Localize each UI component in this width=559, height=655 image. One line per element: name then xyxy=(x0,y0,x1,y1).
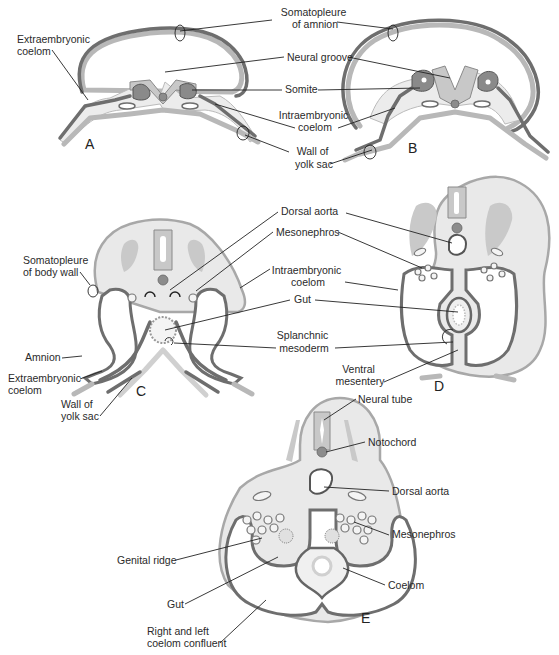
panel-label-e: E xyxy=(361,610,370,626)
label-gut-e: Gut xyxy=(167,598,184,610)
panel-b xyxy=(343,20,548,160)
label-intraembryonic-coelom-cd: Intraembryonic coelom xyxy=(272,264,344,288)
label-ventral-mesentery: Ventral mesentery xyxy=(335,363,385,387)
label-dorsal-aorta-e: Dorsal aorta xyxy=(392,485,449,497)
label-amnion: Amnion xyxy=(25,351,61,363)
panel-label-b: B xyxy=(408,140,417,156)
label-coelom: Coelom xyxy=(388,579,424,591)
panel-a xyxy=(60,28,258,144)
label-wall-of-yolk-sac-ab: Wall of yolk sac xyxy=(295,145,333,170)
panel-e xyxy=(219,398,415,622)
label-somite: Somite xyxy=(285,83,318,95)
panel-label-a: A xyxy=(85,136,95,152)
label-intraembryonic-coelom-ab: Intraembryonic coelom xyxy=(279,109,351,133)
label-genital-ridge: Genital ridge xyxy=(117,554,177,566)
label-splanchnic-mesoderm: Splanchnic mesoderm xyxy=(277,329,331,354)
panel-d xyxy=(402,177,550,380)
label-wall-of-yolk-sac-c: Wall of yolk sac xyxy=(61,398,99,422)
panel-label-d: D xyxy=(434,378,444,394)
label-somatopleure-body-wall: Somatopleure of body wall xyxy=(23,254,91,278)
panel-c xyxy=(74,220,252,396)
label-coelom-confluent: Right and left coelom confluent xyxy=(147,625,226,649)
label-neural-groove: Neural groove xyxy=(287,51,353,63)
embryo-folding-diagram: A B C D E Somatopleure of amnion Extraem… xyxy=(0,0,559,655)
label-neural-tube: Neural tube xyxy=(358,393,412,405)
label-somatopleure-of-amnion: Somatopleure of amnion xyxy=(281,6,349,30)
label-notochord: Notochord xyxy=(368,436,417,448)
label-gut-cd: Gut xyxy=(294,293,311,305)
label-mesonephros-e: Mesonephros xyxy=(392,528,456,540)
panel-label-c: C xyxy=(136,383,146,399)
label-dorsal-aorta-cd: Dorsal aorta xyxy=(281,205,338,217)
label-mesonephros-cd: Mesonephros xyxy=(276,226,340,238)
